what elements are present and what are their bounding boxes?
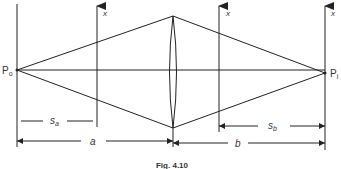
object-point-label: Po <box>2 65 13 77</box>
dimension-s-b: sb <box>219 120 325 132</box>
s-b-label: sb <box>268 120 277 132</box>
b-label: b <box>235 138 241 149</box>
image-point-dot <box>324 72 327 75</box>
x-axis-2: x <box>219 6 231 132</box>
x-axis-1-label: x <box>102 9 108 18</box>
a-label: a <box>90 136 96 147</box>
figure-caption: Fig. 4.10 <box>156 161 189 169</box>
x-axis-1: x <box>97 6 108 127</box>
x-axis-2-label: x <box>225 9 231 18</box>
lens <box>170 16 177 128</box>
object-point-dot <box>16 69 19 72</box>
x-axis-3-label: x <box>330 9 336 18</box>
dimension-b: b <box>173 138 325 149</box>
image-point-label: Pi <box>330 68 339 80</box>
s-a-label: sa <box>50 115 59 127</box>
lens-ray-diagram: x x x Po Pi sa a sb b Fig. 4.10 <box>0 0 341 169</box>
dimension-a: a <box>17 136 173 147</box>
dimension-s-a: sa <box>21 115 93 127</box>
